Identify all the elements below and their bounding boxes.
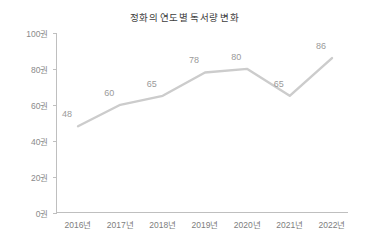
y-axis-ticks <box>53 34 57 214</box>
data-point-label: 60 <box>104 88 114 98</box>
x-axis-tick-label: 2020년 <box>234 218 261 230</box>
x-axis-tick-label: 2022년 <box>319 218 346 230</box>
chart-plot-area <box>0 0 369 246</box>
chart-axes <box>57 33 349 213</box>
x-axis-tick-label: 2016년 <box>65 218 92 230</box>
data-point-label: 65 <box>147 79 157 89</box>
data-point-label: 80 <box>231 52 241 62</box>
data-point-label: 48 <box>62 109 72 119</box>
x-axis-tick-label: 2018년 <box>149 218 176 230</box>
x-axis-tick-label: 2021년 <box>276 218 303 230</box>
y-axis-tick-label: 60권 <box>31 99 48 111</box>
data-point-label: 78 <box>189 55 199 65</box>
chart-container: 정화의 연도별 독서량 변화 0권20권40권60권80권100권 2016년2… <box>0 0 369 246</box>
y-axis-tick-label: 100권 <box>26 27 48 39</box>
series-polyline <box>78 58 332 126</box>
data-point-label: 86 <box>316 41 326 51</box>
y-axis-tick-label: 80권 <box>31 63 48 75</box>
x-axis-tick-label: 2019년 <box>192 218 219 230</box>
y-axis-tick-label: 20권 <box>31 171 48 183</box>
y-axis-tick-label: 0권 <box>36 207 49 219</box>
data-series-line <box>78 58 332 126</box>
data-point-label: 65 <box>274 79 284 89</box>
y-axis-tick-label: 40권 <box>31 135 48 147</box>
x-axis-tick-label: 2017년 <box>107 218 134 230</box>
